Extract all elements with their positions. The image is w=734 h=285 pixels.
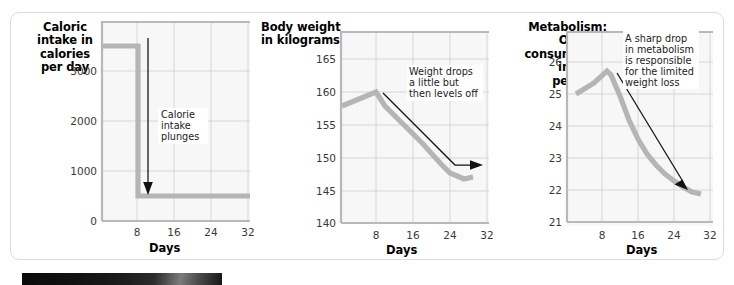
photo-strip-partial (22, 273, 222, 285)
xaxis-label-metabolism: Days (626, 243, 657, 257)
chart-panel-caloric-intake: Caloric intake in calories per day 3000 … (15, 13, 255, 261)
figure-card: Caloric intake in calories per day 3000 … (10, 12, 724, 260)
xtick-32: 32 (703, 229, 716, 241)
plot-body-weight: 165 160 155 150 145 140 8 16 24 32 Weigh… (255, 13, 495, 261)
xtick-8: 8 (134, 226, 141, 238)
plot-metabolism: 26 25 24 23 22 21 8 16 24 32 A sharp dro… (495, 13, 734, 261)
xtick-32: 32 (480, 229, 493, 241)
annotation-line: weight loss (625, 77, 679, 88)
xtick-24: 24 (443, 229, 457, 241)
chart-panel-metabolism: Metabolism: Oxygen consumption in liters… (495, 13, 725, 261)
ytick-160: 160 (316, 86, 336, 98)
ytick-2000: 2000 (70, 115, 97, 127)
ytick-26: 26 (549, 56, 563, 68)
ytick-22: 22 (549, 184, 562, 196)
annotation-line: a little but (409, 77, 459, 88)
xtick-24: 24 (667, 229, 681, 241)
plot-background (341, 31, 489, 223)
annotation-line: then levels off (409, 88, 478, 99)
ytick-0: 0 (90, 215, 97, 227)
annotation-line: is responsible (625, 55, 691, 66)
ytick-140: 140 (316, 217, 336, 229)
annotation-line: for the limited (625, 66, 694, 77)
ytick-1000: 1000 (70, 165, 97, 177)
ytick-3000: 3000 (70, 65, 97, 77)
ytick-145: 145 (316, 185, 336, 197)
annotation-line: in metabolism (625, 44, 694, 55)
xtick-8: 8 (373, 229, 380, 241)
annotation-line: intake (161, 120, 191, 131)
ytick-25: 25 (549, 88, 562, 100)
xtick-16: 16 (631, 229, 645, 241)
annotation-line: A sharp drop (625, 33, 687, 44)
plot-caloric-intake: 3000 2000 1000 0 8 16 24 32 Calorie inta… (15, 13, 255, 261)
ytick-24: 24 (549, 120, 563, 132)
annotation-line: Calorie (161, 109, 195, 120)
xaxis-label-body-weight: Days (386, 243, 417, 257)
annotation-line: plunges (161, 131, 199, 142)
chart-panel-body-weight: Body weight in kilograms 165 160 155 150… (255, 13, 495, 261)
xtick-8: 8 (599, 229, 606, 241)
ytick-155: 155 (316, 119, 336, 131)
ytick-150: 150 (316, 152, 336, 164)
xtick-24: 24 (204, 226, 218, 238)
xtick-16: 16 (406, 229, 420, 241)
xtick-16: 16 (167, 226, 181, 238)
xaxis-label-caloric-intake: Days (149, 241, 180, 255)
ytick-165: 165 (316, 53, 336, 65)
xtick-32: 32 (241, 226, 254, 238)
ytick-23: 23 (549, 152, 562, 164)
ytick-21: 21 (549, 216, 562, 228)
annotation-line: Weight drops (409, 66, 473, 77)
